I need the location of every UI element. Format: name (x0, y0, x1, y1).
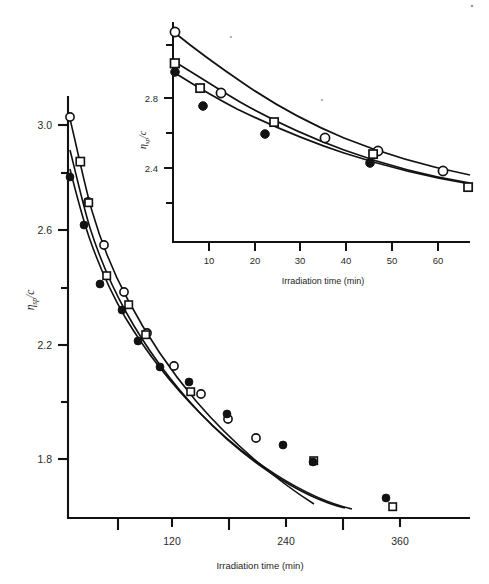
main-y-label-2-2: 2.2 (37, 339, 52, 351)
inset-chart: 2.8 2.4 ηsp/c 10 20 30 40 50 60 Irradiat… (137, 22, 472, 286)
data-point (76, 158, 84, 166)
main-x-label-240: 240 (277, 535, 295, 547)
data-point (142, 331, 149, 338)
data-point (320, 133, 329, 142)
data-point (369, 150, 377, 158)
inset-y-axis-title-text: ηsp/c (137, 130, 150, 149)
data-point (366, 159, 375, 168)
data-point (279, 441, 287, 449)
inset-x-axis-title: Irradiation time (min) (282, 276, 365, 286)
data-point (170, 362, 178, 370)
data-point (252, 434, 260, 442)
data-point (85, 199, 92, 206)
data-point (261, 130, 270, 139)
inset-y-axis-title: ηsp/c (137, 130, 150, 149)
main-y-axis-suffix: /c (24, 290, 36, 299)
main-series-open-circle (66, 113, 260, 442)
figure-container: 3.0 2.6 2.2 1.8 ηsp/c 120 240 360 Irradi… (0, 0, 489, 584)
data-point (196, 84, 204, 92)
inset-y-label-2-8: 2.8 (145, 93, 158, 104)
inset-x-label-30: 30 (295, 255, 306, 266)
inset-curve-open-circle (175, 33, 470, 175)
data-point (197, 390, 205, 398)
data-point (382, 494, 390, 502)
inset-y-axis-suffix: /c (137, 130, 148, 139)
main-x-ticks (118, 518, 400, 530)
data-point (389, 503, 396, 510)
data-point (103, 272, 110, 279)
inset-series-open-circle (170, 27, 447, 175)
data-point (223, 410, 231, 418)
inset-x-label-40: 40 (341, 255, 352, 266)
scan-speck (321, 99, 323, 101)
main-chart: 3.0 2.6 2.2 1.8 ηsp/c 120 240 360 Irradi… (24, 96, 470, 571)
main-x-axis-title: Irradiation time (min) (216, 560, 303, 571)
inset-x-ticks (209, 242, 438, 251)
main-series-open-square (76, 158, 396, 511)
inset-x-label-20: 20 (250, 255, 261, 266)
data-point (125, 301, 132, 308)
scan-speck (230, 36, 232, 38)
data-point (120, 288, 128, 296)
data-point (170, 27, 179, 36)
data-point (66, 113, 74, 121)
data-point (199, 102, 208, 111)
data-point (66, 173, 74, 181)
inset-series-open-square (171, 59, 473, 191)
data-point (464, 183, 472, 191)
main-y-label-1-8: 1.8 (37, 453, 52, 465)
data-point (118, 306, 126, 314)
data-point (171, 59, 180, 68)
data-point (187, 388, 194, 395)
main-x-label-120: 120 (163, 535, 181, 547)
inset-x-label-10: 10 (204, 255, 215, 266)
chart-svg: 3.0 2.6 2.2 1.8 ηsp/c 120 240 360 Irradi… (0, 0, 489, 584)
main-y-axis-title: ηsp/c (24, 290, 39, 311)
data-point (309, 458, 317, 466)
data-point (171, 68, 180, 77)
data-point (438, 166, 447, 175)
main-y-axis-title-text: ηsp/c (24, 290, 39, 311)
data-point (270, 118, 278, 126)
main-curve-open-circle (70, 119, 314, 504)
main-y-label-3-0: 3.0 (37, 119, 52, 131)
inset-x-label-60: 60 (433, 255, 444, 266)
main-y-label-2-6: 2.6 (37, 224, 52, 236)
data-point (185, 378, 193, 386)
inset-x-label-50: 50 (387, 255, 398, 266)
main-x-label-360: 360 (391, 535, 409, 547)
scan-speck (471, 5, 474, 8)
main-curve-open-square (70, 150, 345, 508)
data-point (134, 337, 142, 345)
data-point (100, 241, 108, 249)
data-point (80, 221, 88, 229)
inset-axis-lines (173, 22, 470, 242)
data-point (156, 363, 164, 371)
data-point (96, 280, 104, 288)
data-point (216, 88, 225, 97)
main-series-filled-circle (66, 173, 390, 502)
inset-y-label-2-4: 2.4 (145, 163, 158, 174)
